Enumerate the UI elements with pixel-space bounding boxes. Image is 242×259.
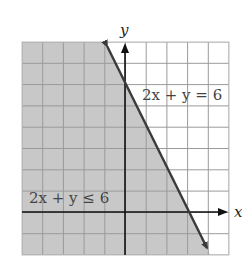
line-equation-label: 2x + y = 6 bbox=[142, 86, 222, 104]
inequality-graph: y x 2x + y = 6 2x + y ≤ 6 bbox=[0, 0, 242, 259]
x-axis-label: x bbox=[234, 203, 242, 221]
region-inequality-label: 2x + y ≤ 6 bbox=[29, 189, 109, 207]
y-axis-label: y bbox=[119, 21, 129, 39]
